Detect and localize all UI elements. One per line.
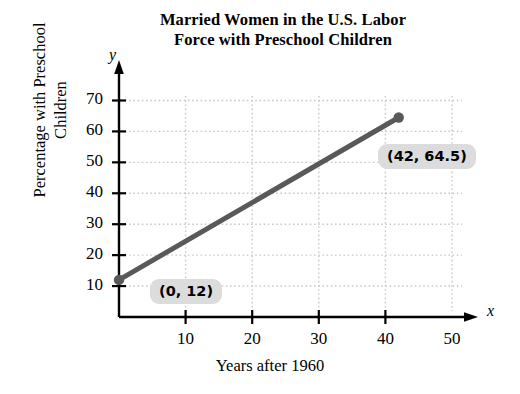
y-tick-label: 60 xyxy=(63,120,103,140)
y-tick-label: 40 xyxy=(63,182,103,202)
data-point-annotation: (0, 12) xyxy=(150,279,222,304)
x-axis-arrowhead xyxy=(464,312,478,322)
y-tick-label: 20 xyxy=(63,244,103,264)
x-tick-label: 50 xyxy=(432,329,472,349)
y-tick-label: 50 xyxy=(63,151,103,171)
data-series-layer xyxy=(114,112,404,285)
x-tick-label: 30 xyxy=(299,329,339,349)
data-point-annotation: (42, 64.5) xyxy=(378,144,476,169)
x-tick-label: 40 xyxy=(365,329,405,349)
y-axis-arrowhead xyxy=(114,60,124,74)
y-tick-label: 10 xyxy=(63,275,103,295)
data-point-marker xyxy=(114,275,124,285)
x-tick-label: 20 xyxy=(232,329,272,349)
y-tick-label: 70 xyxy=(63,89,103,109)
chart-figure: Married Women in the U.S. Labor Force wi… xyxy=(0,0,520,394)
x-tick-label: 10 xyxy=(166,329,206,349)
y-tick-label: 30 xyxy=(63,213,103,233)
data-point-marker xyxy=(394,112,404,122)
